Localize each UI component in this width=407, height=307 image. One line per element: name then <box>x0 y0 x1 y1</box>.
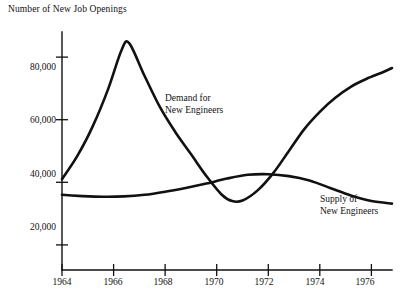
chart-container: Number of New Job Openings 80,000 60,000… <box>0 0 407 307</box>
plot-area <box>0 0 407 307</box>
